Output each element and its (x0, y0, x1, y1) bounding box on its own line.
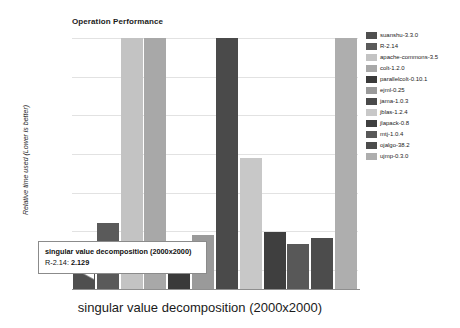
tooltip-title: singular value decomposition (2000x2000) (45, 246, 200, 257)
legend-label: jlapack-0.8 (380, 120, 409, 127)
x-axis-label: singular value decomposition (2000x2000) (0, 300, 400, 315)
bar[interactable] (287, 244, 309, 290)
legend-label: apache-commons-3.5 (380, 54, 438, 61)
legend-color-swatch (366, 153, 377, 160)
gridline (72, 154, 358, 155)
legend-item[interactable]: jblas-1.2.4 (366, 107, 460, 118)
legend-color-swatch (366, 109, 377, 116)
legend-label: suanshu-3.3.0 (380, 32, 418, 39)
legend-color-swatch (366, 98, 377, 105)
legend-color-swatch (366, 142, 377, 149)
legend-label: parallelcolt-0.10.1 (380, 76, 427, 83)
tooltip-value-row: R-2.14: 2.129 (45, 257, 200, 268)
legend-label: ujmp-0.3.0 (380, 153, 408, 160)
legend-item[interactable]: ujmp-0.3.0 (366, 151, 460, 162)
legend-item[interactable]: suanshu-3.3.0 (366, 30, 460, 41)
chart-title: Operation Performance (72, 17, 163, 26)
legend-color-swatch (366, 43, 377, 50)
legend-color-swatch (366, 120, 377, 127)
legend-label: mtj-1.0.4 (380, 131, 403, 138)
gridline (72, 38, 358, 39)
legend-color-swatch (366, 54, 377, 61)
gridline (72, 115, 358, 116)
tooltip-series-value: 2.129 (71, 258, 89, 267)
bar[interactable] (335, 38, 357, 290)
legend-color-swatch (366, 65, 377, 72)
legend-label: ojalgo-38.2 (380, 142, 410, 149)
chart-container: Operation Performance Relative time used… (0, 0, 460, 328)
bar[interactable] (264, 232, 286, 290)
legend-color-swatch (366, 87, 377, 94)
legend-item[interactable]: jlapack-0.8 (366, 118, 460, 129)
legend-item[interactable]: ojalgo-38.2 (366, 140, 460, 151)
legend: suanshu-3.3.0R-2.14apache-commons-3.5col… (366, 30, 460, 162)
tooltip: singular value decomposition (2000x2000)… (38, 241, 207, 274)
legend-color-swatch (366, 76, 377, 83)
legend-item[interactable]: jama-1.0.3 (366, 96, 460, 107)
bar[interactable] (216, 38, 238, 290)
legend-item[interactable]: mtj-1.0.4 (366, 129, 460, 140)
legend-label: R-2.14 (380, 43, 398, 50)
legend-item[interactable]: parallelcolt-0.10.1 (366, 74, 460, 85)
legend-label: jblas-1.2.4 (380, 109, 408, 116)
legend-item[interactable]: ejml-0.25 (366, 85, 460, 96)
legend-item[interactable]: apache-commons-3.5 (366, 52, 460, 63)
legend-item[interactable]: R-2.14 (366, 41, 460, 52)
y-axis-label-wrapper: Relative time used (Lower is better) (18, 100, 32, 220)
legend-color-swatch (366, 131, 377, 138)
bar[interactable] (311, 238, 333, 290)
bar[interactable] (240, 158, 262, 290)
legend-label: colt-1.2.0 (380, 65, 405, 72)
gridline (72, 77, 358, 78)
x-axis-line (72, 289, 360, 290)
gridline (72, 193, 358, 194)
legend-label: ejml-0.25 (380, 87, 405, 94)
legend-color-swatch (366, 32, 377, 39)
legend-label: jama-1.0.3 (380, 98, 408, 105)
y-axis-label: Relative time used (Lower is better) (22, 105, 29, 215)
tooltip-series-name: R-2.14: (45, 258, 69, 267)
legend-item[interactable]: colt-1.2.0 (366, 63, 460, 74)
